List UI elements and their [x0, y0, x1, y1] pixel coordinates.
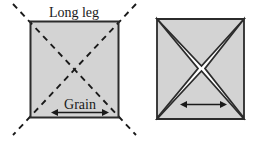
label-long-leg: Long leg — [49, 5, 99, 20]
figure-svg: Long leg Grain — [0, 0, 265, 141]
figure-container: Long leg Grain — [0, 0, 265, 141]
panel-cut-square — [157, 19, 244, 119]
label-grain: Grain — [64, 97, 96, 112]
panel-uncut-square: Long leg Grain — [13, 4, 136, 135]
